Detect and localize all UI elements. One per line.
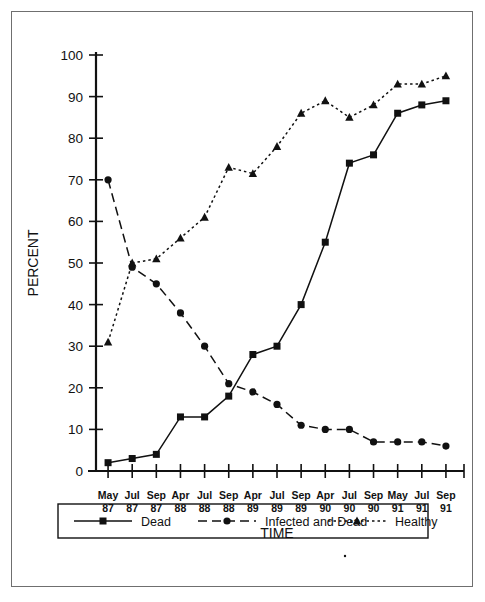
- x-tick-label-month: Sep: [219, 489, 238, 501]
- data-point: [249, 351, 256, 358]
- data-point: [346, 426, 353, 433]
- x-tick-label-month: Jul: [342, 489, 357, 501]
- data-point: [298, 422, 305, 429]
- data-point: [418, 101, 425, 108]
- data-point: [394, 110, 401, 117]
- data-point: [225, 380, 232, 387]
- data-point: [153, 280, 160, 287]
- x-tick-label-month: Jul: [125, 489, 140, 501]
- y-tick-label: 80: [68, 131, 83, 146]
- data-point: [322, 426, 329, 433]
- y-axis: 0102030405060708090100: [60, 48, 103, 479]
- data-point: [225, 163, 233, 171]
- data-point: [345, 113, 353, 121]
- data-point: [249, 388, 256, 395]
- data-point: [273, 401, 280, 408]
- data-point: [297, 109, 305, 117]
- y-tick-label: 90: [68, 90, 83, 105]
- line-chart: 0102030405060708090100PERCENTMay87Jul87S…: [12, 12, 474, 588]
- data-point: [104, 338, 112, 346]
- x-tick-label-month: Apr: [316, 489, 334, 501]
- data-point: [370, 438, 377, 445]
- y-tick-label: 20: [68, 381, 83, 396]
- data-point: [274, 343, 281, 350]
- x-tick-label-month: May: [387, 489, 408, 501]
- y-tick-label: 10: [68, 422, 83, 437]
- y-tick-label: 70: [68, 173, 83, 188]
- legend-marker-circle: [223, 517, 230, 524]
- y-tick-label: 40: [68, 298, 83, 313]
- x-tick-label-month: Apr: [244, 489, 262, 501]
- chart-canvas: 0102030405060708090100PERCENTMay87Jul87S…: [12, 12, 474, 588]
- y-tick-label: 50: [68, 256, 83, 271]
- data-point: [442, 97, 449, 104]
- data-point: [394, 438, 401, 445]
- data-point: [201, 343, 208, 350]
- data-point: [442, 71, 450, 79]
- data-point: [298, 301, 305, 308]
- data-point: [177, 309, 184, 316]
- x-tick-label-month: Jul: [197, 489, 212, 501]
- x-tick-label-month: Sep: [147, 489, 166, 501]
- legend-marker-square: [100, 518, 107, 525]
- data-point: [201, 413, 208, 420]
- x-tick-label-year: 91: [440, 502, 452, 514]
- data-point: [225, 393, 232, 400]
- data-point: [129, 455, 136, 462]
- data-point: [321, 96, 329, 104]
- data-point: [322, 239, 329, 246]
- scan-speck: [344, 555, 346, 557]
- x-axis: May87Jul87Sep87Apr88Jul88Sep88Apr89Jul89…: [88, 464, 464, 514]
- data-point: [200, 213, 208, 221]
- data-point: [418, 438, 425, 445]
- y-tick-label: 30: [68, 339, 83, 354]
- data-point: [370, 151, 377, 158]
- y-tick-label: 0: [75, 464, 83, 479]
- legend-label: Healthy: [395, 515, 438, 529]
- data-point: [369, 101, 377, 109]
- legend-label: Dead: [141, 515, 171, 529]
- y-tick-label: 60: [68, 214, 83, 229]
- y-axis-title: PERCENT: [25, 229, 41, 296]
- data-point: [418, 80, 426, 88]
- data-point: [105, 459, 112, 466]
- data-point: [128, 259, 136, 267]
- x-tick-label-month: Sep: [292, 489, 311, 501]
- x-tick-label-month: May: [98, 489, 119, 501]
- data-point: [104, 176, 111, 183]
- data-point: [346, 160, 353, 167]
- x-tick-label-month: Apr: [171, 489, 189, 501]
- data-point: [177, 413, 184, 420]
- series-infected-and-dead: [104, 176, 449, 449]
- data-point: [153, 451, 160, 458]
- x-tick-label-month: Sep: [364, 489, 383, 501]
- figure-frame: 0102030405060708090100PERCENTMay87Jul87S…: [11, 11, 473, 587]
- x-tick-label-month: Jul: [269, 489, 284, 501]
- x-tick-label-month: Jul: [414, 489, 429, 501]
- y-tick-label: 100: [60, 48, 83, 63]
- x-tick-label-month: Sep: [436, 489, 455, 501]
- data-point: [442, 442, 449, 449]
